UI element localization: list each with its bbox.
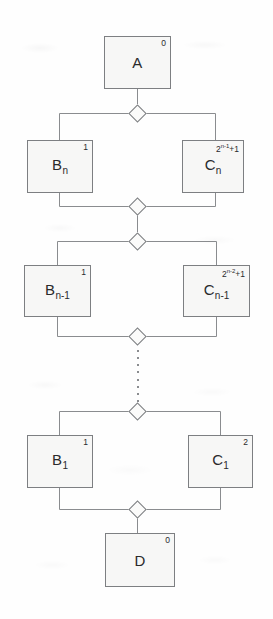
node-d-label: D bbox=[134, 553, 145, 568]
node-bn-label: Bn bbox=[52, 157, 68, 176]
node-b1[interactable]: B1 1 bbox=[27, 435, 93, 488]
node-cn-1-label: Cn-1 bbox=[204, 282, 230, 301]
node-b1-multiplicity: 1 bbox=[83, 438, 88, 447]
node-cn-1[interactable]: Cn-1 2n-2+1 bbox=[183, 265, 250, 317]
node-a-multiplicity: 0 bbox=[161, 39, 166, 48]
node-c1[interactable]: C1 2 bbox=[188, 435, 253, 488]
node-d-multiplicity: 0 bbox=[165, 536, 170, 545]
node-c1-label: C1 bbox=[212, 452, 229, 471]
node-cn-1-multiplicity: 2n-2+1 bbox=[222, 268, 245, 278]
ellipsis-continuation bbox=[137, 350, 139, 402]
node-b1-label: B1 bbox=[52, 452, 68, 471]
node-bn-1-label: Bn-1 bbox=[45, 282, 70, 301]
diagram-canvas: A 0 Bn 1 Cn 2n-1+1 Bn-1 1 Cn-1 2n-2+1 B1… bbox=[0, 0, 273, 619]
node-a[interactable]: A 0 bbox=[104, 36, 171, 89]
node-bn[interactable]: Bn 1 bbox=[27, 140, 93, 193]
node-d[interactable]: D 0 bbox=[105, 533, 175, 587]
node-c1-multiplicity: 2 bbox=[243, 438, 248, 447]
node-bn-1[interactable]: Bn-1 1 bbox=[24, 265, 91, 317]
node-cn[interactable]: Cn 2n-1+1 bbox=[182, 140, 244, 193]
node-a-label: A bbox=[132, 55, 142, 70]
node-cn-label: Cn bbox=[205, 157, 222, 176]
node-bn-1-multiplicity: 1 bbox=[81, 268, 86, 277]
node-cn-multiplicity: 2n-1+1 bbox=[216, 143, 239, 153]
node-bn-multiplicity: 1 bbox=[83, 143, 88, 152]
